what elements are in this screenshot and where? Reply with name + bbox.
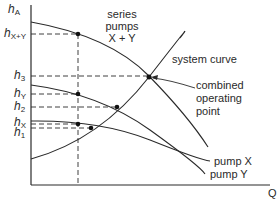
tick-h-x-plus-y: hX+Y bbox=[4, 27, 26, 43]
system-curve-label: system curve bbox=[172, 53, 237, 65]
tick-h3: h3 bbox=[14, 69, 25, 85]
series-pumps-label: series pumps X + Y bbox=[102, 8, 142, 44]
combined-operating-point-label: combined operating point bbox=[196, 79, 244, 118]
pump-y-label: pump Y bbox=[210, 168, 248, 180]
tick-h1: h1 bbox=[14, 126, 25, 142]
y-axis-label: hA bbox=[8, 3, 20, 19]
tick-h2: h2 bbox=[14, 100, 25, 116]
pump-x-label: pump X bbox=[214, 155, 252, 167]
x-axis-label: Q bbox=[268, 187, 277, 199]
operating-points bbox=[76, 32, 152, 131]
dashed-guides bbox=[31, 34, 149, 185]
system-curve bbox=[31, 31, 185, 159]
